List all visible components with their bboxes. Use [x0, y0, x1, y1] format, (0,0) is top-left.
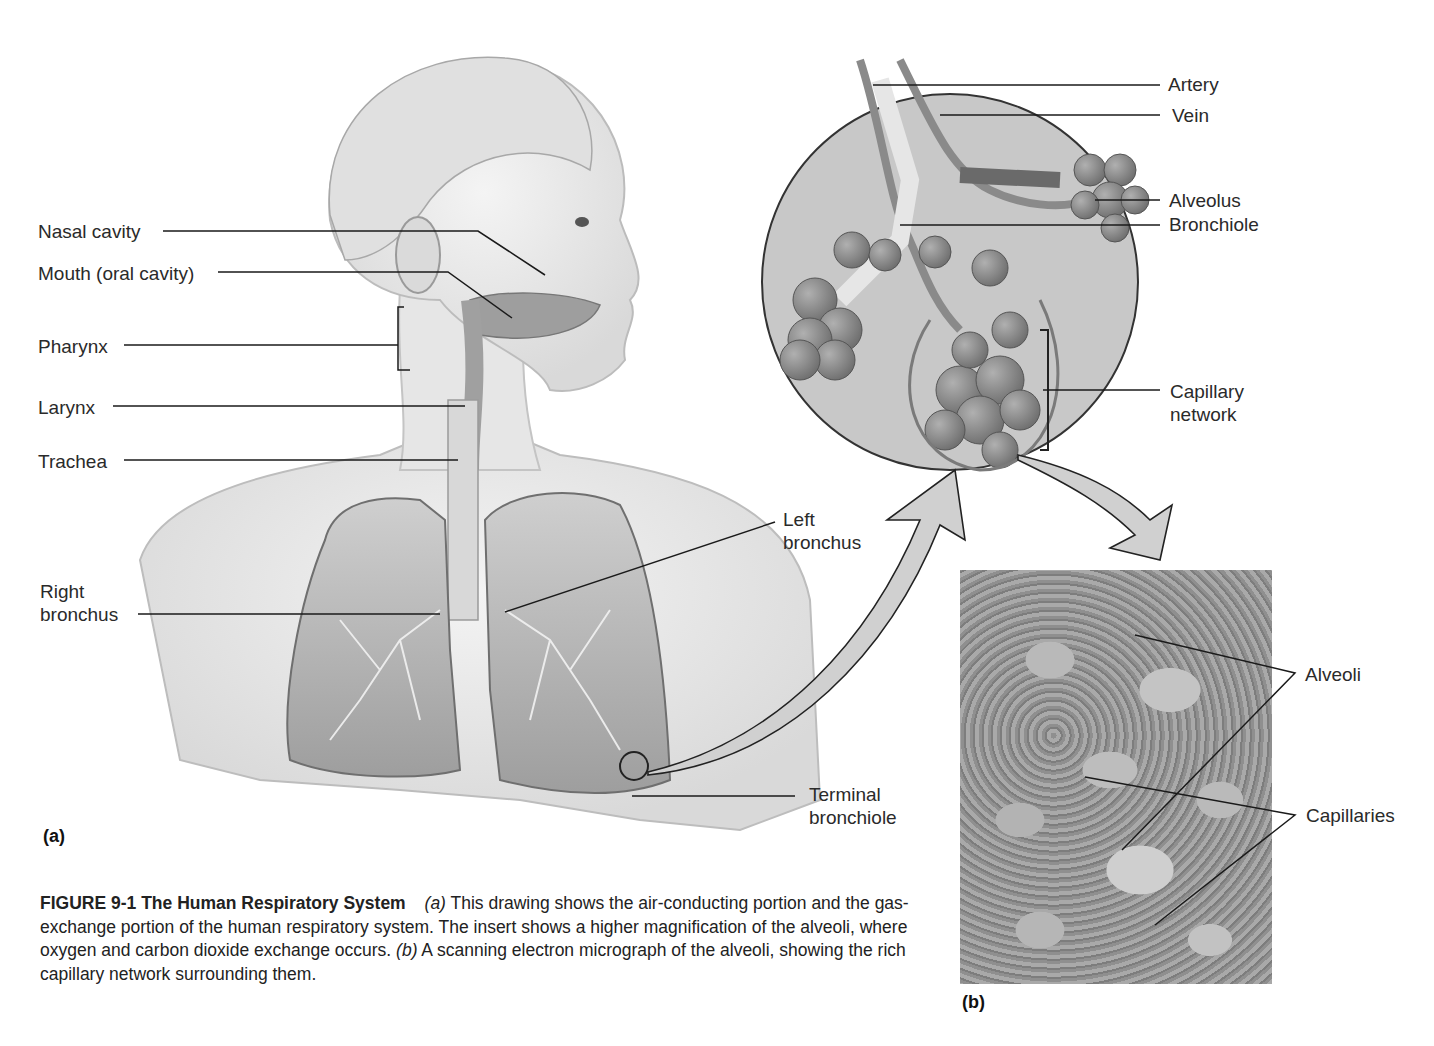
figure-number: FIGURE 9-1 [40, 893, 136, 913]
label-terminal-bronchiole: Terminal bronchiole [809, 783, 897, 829]
caption-part-a-tag: (a) [425, 893, 446, 913]
label-left-bronchus: Left bronchus [783, 508, 861, 554]
label-capillaries: Capillaries [1306, 804, 1395, 827]
micrograph-leaders [0, 0, 1434, 1046]
label-pharynx: Pharynx [38, 335, 108, 358]
figure-title: The Human Respiratory System [141, 893, 406, 913]
panel-tag-b: (b) [962, 992, 985, 1013]
label-bronchiole: Bronchiole [1169, 213, 1259, 236]
label-capillary-network: Capillary network [1170, 380, 1244, 426]
panel-tag-a: (a) [43, 826, 65, 847]
label-alveolus: Alveolus [1169, 189, 1241, 212]
label-mouth: Mouth (oral cavity) [38, 262, 194, 285]
label-trachea: Trachea [38, 450, 107, 473]
label-nasal-cavity: Nasal cavity [38, 220, 140, 243]
label-larynx: Larynx [38, 396, 95, 419]
caption-part-b-tag: (b) [396, 940, 417, 960]
label-alveoli: Alveoli [1305, 663, 1361, 686]
figure-caption: FIGURE 9-1 The Human Respiratory System … [40, 892, 940, 986]
label-vein: Vein [1172, 104, 1209, 127]
label-artery: Artery [1168, 73, 1219, 96]
label-right-bronchus: Right bronchus [40, 580, 118, 626]
